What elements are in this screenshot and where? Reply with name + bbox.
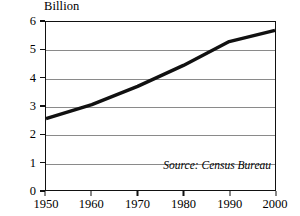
x-tick-mark — [44, 191, 45, 196]
x-tick-mark — [137, 191, 138, 196]
y-tick-6: 6 — [30, 14, 45, 28]
x-tick-mark — [275, 191, 276, 196]
y-tick-1: 1 — [30, 156, 45, 170]
source-note: Source: Census Bureau — [163, 159, 271, 172]
y-tick-4: 4 — [30, 71, 45, 85]
y-tick-label: 1 — [30, 156, 40, 170]
x-axis-tick-group: 195019601970198019902000 — [45, 191, 276, 216]
x-tick-1950: 1950 — [33, 191, 58, 211]
x-tick-label: 1970 — [125, 197, 150, 211]
x-tick-mark — [91, 191, 92, 196]
x-tick-1960: 1960 — [79, 191, 104, 211]
y-tick-label: 2 — [30, 127, 40, 141]
population-line-chart: Billion 0123456 Source: Census Bureau 19… — [0, 0, 300, 216]
x-tick-1980: 1980 — [171, 191, 196, 211]
x-tick-1990: 1990 — [217, 191, 242, 211]
x-tick-mark — [183, 191, 184, 196]
y-axis-tick-group: 0123456 — [0, 21, 45, 191]
y-tick-5: 5 — [30, 42, 45, 56]
x-tick-label: 2000 — [263, 197, 288, 211]
y-tick-label: 5 — [30, 42, 40, 56]
y-tick-3: 3 — [30, 99, 45, 113]
x-tick-label: 1990 — [217, 197, 242, 211]
y-tick-label: 6 — [30, 14, 40, 28]
x-tick-1970: 1970 — [125, 191, 150, 211]
y-tick-2: 2 — [30, 127, 45, 141]
y-tick-label: 3 — [30, 99, 40, 113]
y-axis-unit-label: Billion — [44, 0, 79, 13]
y-tick-label: 4 — [30, 71, 40, 85]
x-tick-2000: 2000 — [264, 191, 289, 211]
x-tick-label: 1980 — [171, 197, 196, 211]
x-tick-label: 1960 — [79, 197, 104, 211]
plot-area: Source: Census Bureau — [45, 21, 276, 191]
x-tick-mark — [229, 191, 230, 196]
x-tick-label: 1950 — [34, 197, 59, 211]
